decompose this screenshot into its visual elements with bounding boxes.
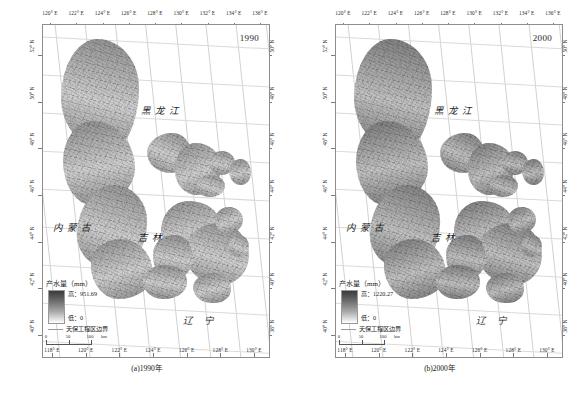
scalebar-unit-a: km bbox=[101, 334, 107, 339]
axis-top-tick-label: 122° E bbox=[362, 10, 377, 16]
map-frame-a: 1990 黑龙江 内蒙古 吉林 辽 宁 bbox=[42, 24, 270, 358]
place-label-liaoning-b: 辽 宁 bbox=[476, 313, 511, 327]
axis-top-labels-a: 120° E122° E124° E126° E128° E130° E132°… bbox=[42, 10, 268, 23]
axis-left-tick-label: 46° N bbox=[29, 180, 35, 193]
map-frame-b: 2000 黑龙江 内蒙古 吉林 辽 宁 bbox=[335, 24, 563, 358]
scalebar-tick-0-b: 0 bbox=[338, 334, 340, 339]
place-label-jilin-a: 吉林 bbox=[138, 230, 166, 244]
legend-color-ramp-a bbox=[48, 290, 65, 324]
axis-top-tick-label: 136° E bbox=[545, 10, 560, 16]
raster-patch bbox=[229, 159, 251, 185]
axis-left-tick-label: 42° N bbox=[29, 273, 35, 286]
boundary-line-icon-b bbox=[341, 329, 356, 330]
raster-patch bbox=[522, 235, 543, 258]
axis-top-tick-label: 130° E bbox=[174, 10, 189, 16]
place-label-liaoning-a: 辽 宁 bbox=[183, 313, 218, 327]
scalebar-tick-100-a: 100 bbox=[87, 334, 94, 339]
figure-dual-map: 120° E122° E124° E126° E128° E130° E132°… bbox=[0, 0, 586, 398]
axis-top-tick-label: 120° E bbox=[335, 10, 350, 16]
axis-top-labels-b: 120° E122° E124° E126° E128° E130° E132°… bbox=[335, 10, 561, 23]
axis-left-tick-label: 50° N bbox=[322, 86, 328, 99]
legend-low-value-a: 低：0 bbox=[68, 314, 83, 322]
place-label-neimenggu-b: 内蒙古 bbox=[346, 220, 388, 234]
raster-patch bbox=[197, 175, 226, 198]
axis-top-tick-label: 124° E bbox=[388, 10, 403, 16]
raster-patch bbox=[229, 235, 250, 258]
axis-left-tick-label: 42° N bbox=[322, 273, 328, 286]
year-label-a: 1990 bbox=[240, 33, 259, 43]
place-label-heilongjiang-a: 黑龙江 bbox=[141, 103, 183, 117]
axis-left-tick-label: 50° N bbox=[29, 86, 35, 99]
axis-top-tick-label: 126° E bbox=[414, 10, 429, 16]
axis-left-tick-label: 40° N bbox=[322, 320, 328, 333]
legend-high-value-b: 高：1220.27 bbox=[361, 290, 393, 298]
axis-top-tick-label: 126° E bbox=[121, 10, 136, 16]
axis-bottom-ticks-a bbox=[42, 353, 268, 357]
map-panel-2000: 120° E122° E124° E126° E128° E130° E132°… bbox=[293, 0, 586, 398]
raster-patch bbox=[193, 273, 231, 304]
axis-top-tick-label: 134° E bbox=[519, 10, 534, 16]
axis-top-tick-label: 128° E bbox=[440, 10, 455, 16]
axis-top-tick-label: 122° E bbox=[69, 10, 84, 16]
axis-top-tick-label: 120° E bbox=[42, 10, 57, 16]
scalebar-b: 0 50 100 km bbox=[339, 334, 401, 345]
axis-left-tick-label: 44° N bbox=[29, 226, 35, 239]
legend-boundary-entry-b: 天保工程区边界 bbox=[341, 325, 401, 333]
axis-top-tick-label: 130° E bbox=[467, 10, 482, 16]
scalebar-bar-a bbox=[46, 340, 92, 345]
caption-b: (b)2000年 bbox=[293, 362, 586, 373]
axis-top-tick-label: 132° E bbox=[200, 10, 215, 16]
raster-patch bbox=[486, 273, 524, 304]
legend-high-value-a: 高：951.69 bbox=[68, 290, 97, 298]
map-panel-1990: 120° E122° E124° E126° E128° E130° E132°… bbox=[0, 0, 293, 398]
legend-boundary-entry-a: 天保工程区边界 bbox=[48, 325, 108, 333]
boundary-line-icon-a bbox=[48, 329, 63, 330]
legend-title-b: 产水量（mm） bbox=[339, 280, 459, 289]
axis-left-tick-label: 40° N bbox=[29, 320, 35, 333]
scalebar-unit-b: km bbox=[394, 334, 400, 339]
scalebar-tick-100-b: 100 bbox=[380, 334, 387, 339]
axis-left-tick-label: 44° N bbox=[322, 226, 328, 239]
place-label-neimenggu-a: 内蒙古 bbox=[53, 220, 95, 234]
axis-bottom-ticks-b bbox=[335, 353, 561, 357]
scalebar-tick-50-a: 50 bbox=[66, 334, 71, 339]
axis-top-tick-label: 132° E bbox=[493, 10, 508, 16]
year-label-b: 2000 bbox=[533, 33, 552, 43]
axis-top-tick-label: 128° E bbox=[147, 10, 162, 16]
place-label-jilin-b: 吉林 bbox=[431, 230, 459, 244]
axis-left-tick-label: 52° N bbox=[29, 40, 35, 53]
scalebar-bar-b bbox=[339, 340, 385, 345]
axis-top-tick-label: 134° E bbox=[226, 10, 241, 16]
axis-top-tick-label: 124° E bbox=[95, 10, 110, 16]
raster-patch bbox=[215, 207, 244, 234]
legend-title-a: 产水量（mm） bbox=[46, 280, 166, 289]
axis-left-tick-label: 46° N bbox=[322, 180, 328, 193]
legend-color-ramp-b bbox=[341, 290, 358, 324]
legend-b: 产水量（mm） 高：1220.27 低：0 天保工程区边界 bbox=[339, 280, 459, 290]
axis-top-tick-label: 136° E bbox=[252, 10, 267, 16]
legend-boundary-label-b: 天保工程区边界 bbox=[359, 325, 401, 332]
legend-a: 产水量（mm） 高：951.69 低：0 天保工程区边界 bbox=[46, 280, 166, 290]
scalebar-tick-0-a: 0 bbox=[45, 334, 47, 339]
place-label-heilongjiang-b: 黑龙江 bbox=[434, 103, 476, 117]
caption-a: (a)1990年 bbox=[0, 362, 293, 373]
axis-left-tick-label: 48° N bbox=[322, 133, 328, 146]
raster-patch bbox=[508, 207, 537, 234]
scalebar-a: 0 50 100 km bbox=[46, 334, 108, 345]
legend-low-value-b: 低：0 bbox=[361, 314, 376, 322]
legend-boundary-label-a: 天保工程区边界 bbox=[66, 325, 108, 332]
axis-left-tick-label: 52° N bbox=[322, 40, 328, 53]
scalebar-tick-50-b: 50 bbox=[359, 334, 364, 339]
raster-patch bbox=[490, 175, 519, 198]
axis-left-tick-label: 48° N bbox=[29, 133, 35, 146]
raster-patch bbox=[522, 159, 544, 185]
